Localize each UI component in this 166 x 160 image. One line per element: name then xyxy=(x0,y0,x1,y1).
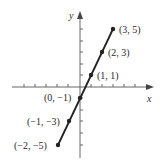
point-2-3 xyxy=(100,50,104,54)
point-label: (2, 3) xyxy=(108,47,130,59)
y-axis-arrow-icon xyxy=(77,11,83,19)
x-axis-label: x xyxy=(146,93,152,104)
y-axis: y xyxy=(68,10,83,158)
point-neg2-neg5 xyxy=(56,143,60,147)
point-neg1-neg3 xyxy=(67,119,71,123)
point-3-5 xyxy=(111,27,115,31)
point-1-1 xyxy=(89,73,93,77)
x-axis-arrow-icon xyxy=(146,84,154,90)
point-label: (3, 5) xyxy=(119,24,141,36)
y-axis-label: y xyxy=(68,10,74,21)
point-0-neg1 xyxy=(78,96,82,100)
point-label: (0, −1) xyxy=(44,92,71,104)
graph-diagram: x y (3, 5) (2, 3) (1, 1) xyxy=(0,0,166,160)
point-label: (−1, −3) xyxy=(27,116,60,128)
point-label: (1, 1) xyxy=(97,70,119,82)
point-label: (−2, −5) xyxy=(14,140,47,152)
